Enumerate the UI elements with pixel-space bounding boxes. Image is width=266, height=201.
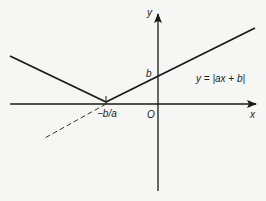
y-intercept-label: b bbox=[146, 68, 152, 79]
graph-left-branch bbox=[10, 56, 106, 102]
graph-svg: y x O b −b/a y = |ax + b| bbox=[0, 0, 266, 201]
abs-linear-function-diagram: y x O b −b/a y = |ax + b| bbox=[0, 0, 266, 201]
function-label: y = |ax + b| bbox=[195, 73, 245, 84]
y-axis-label: y bbox=[146, 7, 153, 18]
graph-right-branch bbox=[106, 28, 255, 102]
x-intercept-label: −b/a bbox=[97, 108, 117, 119]
origin-label: O bbox=[147, 109, 155, 120]
x-axis-label: x bbox=[249, 109, 256, 120]
